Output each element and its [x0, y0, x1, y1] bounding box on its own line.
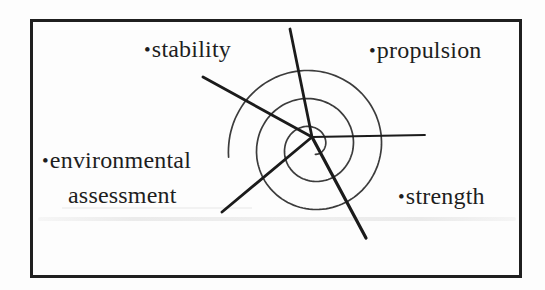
- bullet-environmental: •: [42, 150, 50, 171]
- label-stability: •stability: [144, 35, 231, 64]
- label-assessment-line2: assessment: [42, 178, 191, 212]
- label-environmental-line1: •environmental: [42, 143, 191, 178]
- bullet-strength: •: [398, 186, 406, 207]
- scanned-figure: •stability •propulsion •environmental as…: [0, 0, 545, 290]
- label-strength-text: strength: [406, 183, 485, 209]
- label-environmental-assessment: •environmental assessment: [42, 143, 191, 212]
- label-propulsion-text: propulsion: [377, 37, 482, 63]
- scan-artifact-line: [38, 217, 516, 221]
- bullet-propulsion: •: [369, 40, 377, 61]
- label-environmental-text: environmental: [50, 147, 191, 173]
- label-assessment-text: assessment: [68, 182, 177, 208]
- label-strength: •strength: [398, 182, 485, 211]
- bullet-stability: •: [144, 39, 152, 60]
- label-stability-text: stability: [152, 36, 231, 62]
- label-propulsion: •propulsion: [369, 36, 482, 65]
